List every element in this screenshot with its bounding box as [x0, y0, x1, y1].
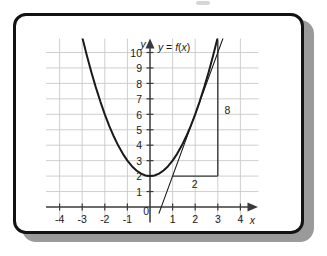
grid-lines: [46, 39, 258, 223]
y-tick-label: 2: [136, 170, 142, 182]
y-tick-label: 6: [136, 109, 142, 121]
y-tick-label: 4: [136, 139, 142, 151]
origin-label: 0: [143, 205, 149, 217]
x-tick-label: 3: [215, 213, 221, 225]
x-tick-label: -2: [100, 213, 109, 225]
x-axis-arrowhead: [247, 203, 258, 212]
y-tick-label: 3: [136, 155, 142, 167]
graph-card-stage: 12345678910-4-3-2-11234xy y = f(x)820: [0, 0, 327, 256]
x-tick-label: -3: [78, 213, 87, 225]
y-tick-label: 9: [136, 62, 142, 74]
rise-label: 8: [225, 104, 231, 116]
x-tick-label: 1: [170, 213, 176, 225]
axes: [46, 39, 258, 223]
y-axis-label: y: [139, 38, 146, 50]
x-axis-label: x: [249, 214, 256, 226]
run-label: 2: [192, 178, 198, 190]
y-axis-arrowhead: [146, 39, 155, 49]
y-tick-label: 7: [136, 93, 142, 105]
function-label: y = f(x): [157, 41, 190, 53]
x-tick-label: -4: [55, 213, 64, 225]
function-graph: 12345678910-4-3-2-11234xy y = f(x)820: [0, 0, 327, 256]
y-tick-label: 1: [136, 186, 142, 198]
plotted-curves: [82, 34, 224, 213]
y-tick-label: 8: [136, 78, 142, 90]
x-tick-label: 4: [237, 213, 243, 225]
tick-labels: 12345678910-4-3-2-11234xy: [55, 38, 256, 226]
y-tick-label: 5: [136, 124, 142, 136]
x-tick-label: 2: [192, 213, 198, 225]
x-tick-label: -1: [123, 213, 132, 225]
